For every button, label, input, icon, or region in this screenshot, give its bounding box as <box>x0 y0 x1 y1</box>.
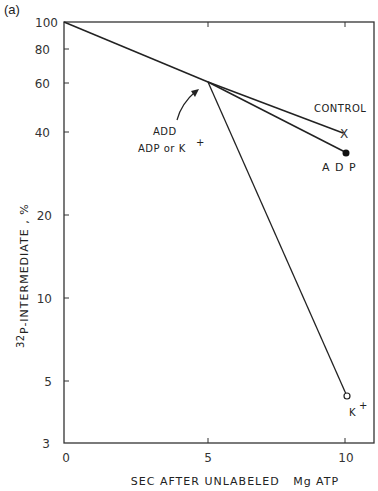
add-label: ADD <box>153 126 177 137</box>
common-segment <box>64 22 208 82</box>
add-arrow <box>177 91 196 120</box>
y-label-superscript: 32 <box>15 334 26 348</box>
add-label-line2: ADP or K <box>138 143 186 154</box>
y-tick-100: 100 <box>35 16 58 30</box>
y-tick-20: 20 <box>37 209 52 223</box>
y-label-main: P-INTERMEDIATE , % <box>18 203 31 334</box>
x-axis: 0 5 10 <box>62 22 353 465</box>
plot-frame <box>64 22 374 443</box>
series-lines <box>64 22 346 394</box>
chart: 100 80 60 40 20 10 5 3 0 5 10 SEC AFTER … <box>0 0 378 491</box>
adp-label: A D P <box>322 161 357 174</box>
y-tick-60: 60 <box>35 77 50 91</box>
x-tick-10: 10 <box>338 451 353 465</box>
y-tick-40: 40 <box>35 126 50 140</box>
y-tick-3: 3 <box>42 437 50 451</box>
k-plus: + <box>359 400 368 411</box>
adp-marker <box>343 150 350 157</box>
y-tick-10: 10 <box>37 292 52 306</box>
adp-line <box>208 82 345 152</box>
k-line <box>208 82 346 394</box>
k-marker <box>344 393 350 399</box>
x-axis-label: SEC AFTER UNLABELED Mg ATP <box>131 475 339 488</box>
y-axis-label: 32 P-INTERMEDIATE , % <box>15 203 31 348</box>
control-label: CONTROL <box>314 103 366 114</box>
x-tick-0: 0 <box>62 451 70 465</box>
x-tick-5: 5 <box>204 451 212 465</box>
add-plus: + <box>196 137 205 148</box>
y-tick-80: 80 <box>35 43 50 57</box>
k-label: K <box>349 407 356 418</box>
y-tick-5: 5 <box>44 375 52 389</box>
control-x-marker: X <box>340 127 348 141</box>
arrow-head-icon <box>191 89 199 97</box>
